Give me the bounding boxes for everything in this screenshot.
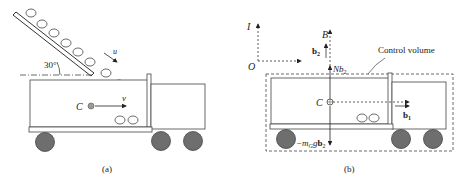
b2-label: b2: [312, 46, 320, 57]
center-of-mass-dot: [88, 103, 94, 109]
truck-cab: [151, 84, 205, 129]
center-label: C: [76, 101, 83, 112]
panel-a: 30° u C v (a): [13, 9, 205, 174]
wheels: [36, 132, 203, 152]
origin-label: O: [248, 61, 255, 72]
body-frame-label: B: [322, 29, 328, 40]
angle-arc: [57, 62, 60, 75]
panel-b: I O B b2 Control volume Nb2 C: [246, 21, 453, 174]
inertial-frame-label: I: [246, 21, 251, 32]
cart-velocity-label: v: [122, 93, 126, 103]
center-label-b: C: [316, 97, 323, 108]
panel-a-caption: (a): [102, 164, 112, 174]
chassis: [29, 127, 152, 132]
bed-post-b: [388, 73, 392, 125]
bed-post: [147, 74, 151, 127]
control-volume-leader: [368, 58, 385, 74]
panel-b-caption: (b): [344, 164, 355, 174]
normal-force-label: Nb2: [332, 64, 347, 75]
angle-label: 30°: [44, 60, 57, 70]
chassis-b: [270, 124, 393, 129]
control-volume-label: Control volume: [378, 45, 435, 55]
truck-cab-b: [392, 82, 446, 129]
falling-rocks: [26, 9, 124, 88]
chute-velocity-label: u: [113, 47, 117, 56]
diagram-canvas: 30° u C v (a) I O: [0, 0, 459, 184]
weight-label: −mGgb2: [296, 138, 325, 149]
